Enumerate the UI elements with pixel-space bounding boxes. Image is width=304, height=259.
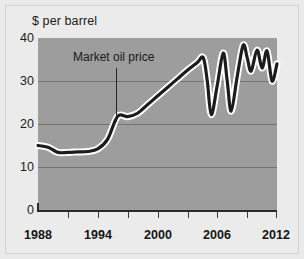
plot-area: 40 30 20 10 0 $ per barrel 1988 1994 200…: [0, 0, 304, 259]
annotation-leader-line: [116, 68, 117, 122]
annotation-market-oil-price: Market oil price: [73, 50, 154, 64]
oil-price-line-series: [0, 0, 304, 259]
chart-figure: 40 30 20 10 0 $ per barrel 1988 1994 200…: [0, 0, 304, 259]
